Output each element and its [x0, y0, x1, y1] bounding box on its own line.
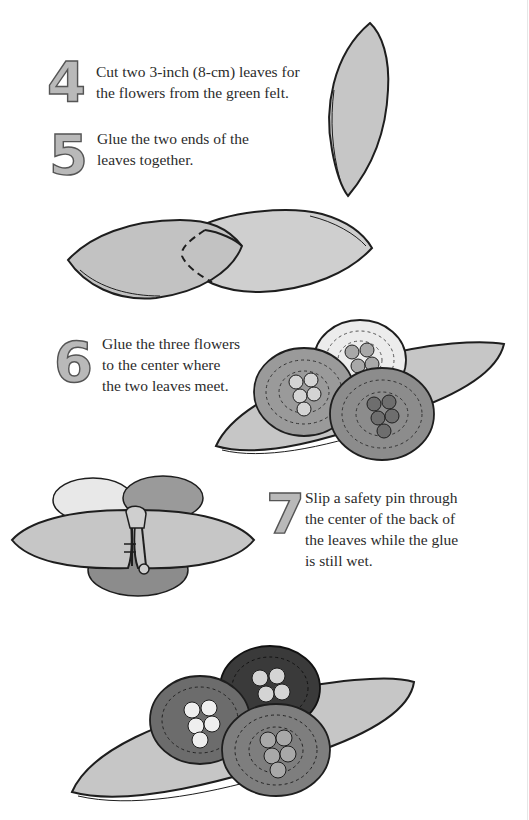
step-7-instruction: Slip a safety pin through the center of …: [305, 487, 458, 571]
step-5-line: Glue the two ends of the: [97, 128, 249, 149]
flowers-on-leaves-illustration: [212, 310, 512, 465]
flower-mid-front: [222, 704, 330, 796]
step-4-instruction: Cut two 3-inch (8-cm) leaves for the flo…: [96, 61, 300, 103]
step-7-line: the center of the back of: [305, 508, 458, 529]
step-4-line: Cut two 3-inch (8-cm) leaves for: [96, 61, 300, 82]
step-number-6: 6: [54, 334, 93, 390]
overlapping-leaves-illustration: [60, 200, 380, 305]
single-leaf-illustration: [320, 20, 400, 200]
safety-pin-back-illustration: [8, 470, 258, 600]
flower-front: [330, 368, 434, 460]
step-number-7: 7: [266, 486, 305, 542]
step-number-4: 4: [47, 54, 86, 110]
step-5-line: leaves together.: [97, 149, 249, 170]
finished-pin-illustration: [70, 630, 430, 810]
step-number-5: 5: [49, 127, 88, 183]
page-edge-divider: [527, 0, 528, 820]
step-7-line: Slip a safety pin through: [305, 487, 458, 508]
step-5-instruction: Glue the two ends of the leaves together…: [97, 128, 249, 170]
step-4-line: the flowers from the green felt.: [96, 82, 300, 103]
step-7-line: the leaves while the glue: [305, 529, 458, 550]
step-7-line: is still wet.: [305, 550, 458, 571]
